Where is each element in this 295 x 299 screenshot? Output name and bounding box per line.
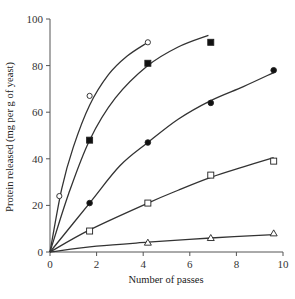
marker-open-square [87, 228, 93, 234]
chart: 0246810020406080100 Number of passes Pro… [0, 0, 295, 299]
x-tick-label: 0 [47, 258, 53, 270]
x-tick-label: 2 [94, 258, 100, 270]
marker-open-square [208, 172, 214, 178]
y-tick-label: 60 [32, 106, 44, 118]
marker-open-circle [87, 93, 92, 98]
series-curves [50, 35, 274, 252]
marker-filled-circle [145, 140, 151, 146]
curve-open-triangle [50, 235, 274, 252]
curve-open-circle [50, 42, 148, 252]
y-tick-label: 0 [38, 246, 44, 258]
x-tick-label: 10 [278, 258, 290, 270]
y-tick-label: 40 [32, 153, 44, 165]
marker-filled-square [208, 39, 214, 45]
x-axis-label: Number of passes [128, 274, 203, 285]
x-tick-label: 4 [140, 258, 146, 270]
marker-filled-square [87, 137, 93, 143]
y-tick-label: 80 [32, 60, 44, 72]
marker-open-triangle [270, 230, 277, 236]
marker-open-circle [57, 193, 62, 198]
marker-filled-circle [271, 67, 277, 73]
marker-filled-square [145, 60, 151, 66]
y-axis-label: Protein released (mg per g of yeast) [4, 62, 16, 212]
curve-open-square [50, 158, 274, 252]
y-tick-label: 20 [32, 199, 44, 211]
marker-open-square [145, 200, 151, 206]
x-tick-label: 6 [187, 258, 193, 270]
curve-filled-square [50, 35, 208, 252]
x-tick-label: 8 [234, 258, 240, 270]
data-markers [57, 39, 277, 245]
y-tick-label: 100 [27, 13, 44, 25]
marker-open-circle [145, 40, 150, 45]
curve-filled-circle [50, 73, 274, 252]
marker-filled-circle [87, 200, 93, 206]
marker-filled-circle [208, 100, 214, 106]
marker-open-square [271, 158, 277, 164]
